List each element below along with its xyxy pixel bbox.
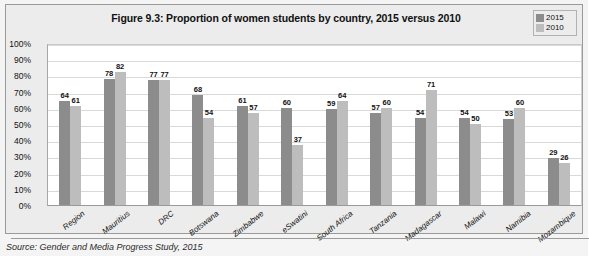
bar-value-label: 57	[371, 103, 379, 112]
bar-value-label: 26	[560, 153, 568, 162]
bar-2010[interactable]: 61	[70, 106, 81, 205]
x-axis-tick-label: Malawi	[463, 209, 488, 231]
y-axis-tick-label: 30%	[0, 152, 31, 162]
y-axis-tick-label: 60%	[0, 104, 31, 114]
bar-pair: 7882	[92, 45, 136, 205]
bar-2015[interactable]: 78	[104, 79, 115, 205]
bar-value-label: 57	[249, 103, 257, 112]
legend-label-2015: 2015	[546, 13, 564, 23]
y-axis-tick-label: 70%	[0, 88, 31, 98]
bar-value-label: 29	[549, 148, 557, 157]
y-axis-tick-label: 20%	[0, 169, 31, 179]
x-axis-label-cell: Tanzania	[359, 207, 404, 241]
bar-group: 7882	[92, 45, 136, 205]
legend-item-2015: 2015	[536, 13, 574, 23]
bar-pair: 2926	[537, 45, 581, 205]
bar-pair: 5760	[359, 45, 403, 205]
bar-value-label: 60	[382, 98, 390, 107]
bar-group: 6037	[270, 45, 314, 205]
bar-group: 6157	[226, 45, 270, 205]
bar-value-label: 54	[416, 108, 424, 117]
y-axis-tick-label: 90%	[0, 55, 31, 65]
axis-baseline	[11, 238, 589, 239]
x-axis-label-cell: Region	[47, 207, 92, 241]
bar-value-label: 60	[283, 98, 291, 107]
bar-group: 5964	[315, 45, 359, 205]
bar-value-label: 54	[205, 108, 213, 117]
bar-2015[interactable]: 77	[148, 80, 159, 205]
bar-2015[interactable]: 59	[326, 109, 337, 205]
bar-group: 6854	[181, 45, 225, 205]
x-axis-label-cell: Madagascar	[404, 207, 449, 241]
bar-value-label: 77	[160, 70, 168, 79]
bar-pair: 6854	[181, 45, 225, 205]
bar-2010[interactable]: 60	[381, 108, 392, 205]
x-axis-label-cell: Namibia	[493, 207, 538, 241]
bar-pair: 7777	[137, 45, 181, 205]
bar-2010[interactable]: 57	[248, 113, 259, 205]
source-caption: Source: Gender and Media Progress Study,…	[6, 242, 202, 252]
bar-group: 5450	[448, 45, 492, 205]
bar-2010[interactable]: 26	[559, 163, 570, 205]
bar-2015[interactable]: 61	[237, 106, 248, 205]
bar-group: 5760	[359, 45, 403, 205]
x-axis-tick-label: Tanzania	[368, 209, 399, 236]
y-axis-tick-label: 50%	[0, 120, 31, 130]
bar-2015[interactable]: 53	[503, 119, 514, 205]
x-axis-tick-label: Mauritius	[100, 209, 131, 236]
x-axis-tick-label: DRC	[157, 209, 176, 227]
bar-pair: 5450	[448, 45, 492, 205]
bar-2015[interactable]: 68	[192, 95, 203, 205]
x-axis-tick-label: Namibia	[504, 209, 533, 234]
bar-value-label: 78	[105, 69, 113, 78]
bar-2015[interactable]: 60	[281, 108, 292, 205]
x-axis-label-cell: DRC	[136, 207, 181, 241]
bar-2015[interactable]: 57	[370, 113, 381, 205]
bar-group: 5360	[492, 45, 536, 205]
bar-2010[interactable]: 50	[470, 124, 481, 205]
legend-label-2010: 2010	[546, 23, 564, 33]
x-axis-tick-label: Zimbabwe	[231, 209, 266, 239]
bar-pair: 5471	[403, 45, 447, 205]
y-axis-tick-label: 0%	[0, 201, 31, 211]
legend-swatch-2015	[536, 14, 544, 22]
x-axis-tick-label: Region	[61, 209, 87, 232]
bar-value-label: 77	[149, 70, 157, 79]
bar-group: 7777	[137, 45, 181, 205]
bar-value-label: 68	[194, 85, 202, 94]
x-axis-label-cell: Malawi	[448, 207, 493, 241]
chart-frame: Figure 9.3: Proportion of women students…	[5, 4, 583, 234]
legend-item-2010: 2010	[536, 23, 574, 33]
x-axis-tick-label: Mozambique	[536, 209, 578, 244]
x-axis-tick-label: eSwatini	[280, 209, 309, 235]
bar-pair: 6461	[48, 45, 92, 205]
bar-2015[interactable]: 64	[59, 101, 70, 205]
bar-2015[interactable]: 54	[415, 118, 426, 205]
bar-group: 6461	[48, 45, 92, 205]
bar-value-label: 54	[460, 108, 468, 117]
bar-group: 2926	[537, 45, 581, 205]
bar-value-label: 37	[294, 135, 302, 144]
bar-2010[interactable]: 82	[115, 72, 126, 205]
bar-value-label: 64	[61, 91, 69, 100]
bar-2015[interactable]: 54	[459, 118, 470, 205]
plot-area: 6461788277776854615760375964576054715450…	[47, 44, 582, 206]
bar-2010[interactable]: 54	[203, 118, 214, 205]
bar-pair: 6157	[226, 45, 270, 205]
bar-pair: 6037	[270, 45, 314, 205]
chart-title: Figure 9.3: Proportion of women students…	[46, 12, 526, 24]
y-axis-tick-label: 40%	[0, 136, 31, 146]
y-axis-tick-label: 80%	[0, 71, 31, 81]
bar-2010[interactable]: 60	[514, 108, 525, 205]
bar-2010[interactable]: 71	[426, 90, 437, 205]
bar-2010[interactable]: 64	[337, 101, 348, 205]
bar-groups: 6461788277776854615760375964576054715450…	[48, 45, 581, 205]
bar-2015[interactable]: 29	[548, 158, 559, 205]
bar-value-label: 50	[471, 114, 479, 123]
x-axis-label-cell: eSwatini	[270, 207, 315, 241]
bar-value-label: 64	[338, 91, 346, 100]
bar-2010[interactable]: 37	[292, 145, 303, 205]
bar-2010[interactable]: 77	[159, 80, 170, 205]
bar-value-label: 59	[327, 99, 335, 108]
